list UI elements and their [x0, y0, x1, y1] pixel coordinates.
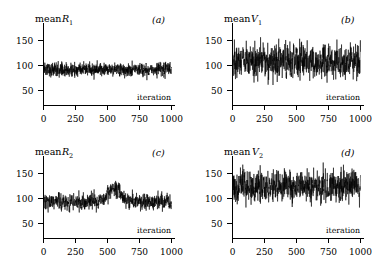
panel-c-trace-line	[44, 181, 172, 213]
panel-b-trace-line	[233, 37, 361, 85]
panel-c-ytick-100: 100	[16, 194, 33, 204]
panel-a-ylabel-prefix: mean	[35, 13, 61, 24]
panel-a-ytick-150: 150	[16, 36, 33, 46]
panel-d-xtick-0: 0	[230, 247, 236, 257]
panel-d-xtick-1000: 1000	[349, 247, 372, 257]
panel-a-xtick-750: 750	[131, 114, 148, 124]
panel-b-svg: mean V 1 (b) 150 100 50 0 250 500 750 10…	[189, 0, 377, 133]
panel-c-ytick-50: 50	[22, 219, 34, 229]
panel-b-xtick-500: 500	[288, 114, 305, 124]
panel-d-ytick-150: 150	[205, 169, 222, 179]
panel-b-ytick-100: 100	[205, 61, 222, 71]
panel-d-ytick-100: 100	[205, 194, 222, 204]
panel-d-xtick-250: 250	[256, 247, 273, 257]
panel-c: mean R 2 (c) 150 100 50 0 250 500 750 10…	[0, 133, 188, 266]
panel-b-xtick-1000: 1000	[349, 114, 372, 124]
panel-a-ytick-50: 50	[22, 86, 34, 96]
panel-d-trace-line	[233, 163, 361, 208]
panel-b-xtick-750: 750	[320, 114, 337, 124]
panel-a-ytick-100: 100	[16, 61, 33, 71]
panel-c-xtick-750: 750	[131, 247, 148, 257]
panel-d-letter: (d)	[341, 147, 355, 158]
panel-c-xtick-250: 250	[67, 247, 84, 257]
panel-d-xtick-500: 500	[288, 247, 305, 257]
panel-b-xlabel: iteration	[326, 93, 360, 102]
panel-d-ylabel-sub: 2	[259, 152, 263, 160]
panel-a-xtick-250: 250	[67, 114, 84, 124]
panel-c-ylabel-sub: 2	[69, 152, 73, 160]
panel-a-ylabel-sub: 1	[69, 19, 73, 27]
panel-b-xtick-0: 0	[230, 114, 236, 124]
panel-a-xtick-500: 500	[99, 114, 116, 124]
panel-c-xtick-0: 0	[41, 247, 47, 257]
panel-a-xtick-1000: 1000	[160, 114, 183, 124]
panel-a-xlabel: iteration	[137, 93, 171, 102]
panel-c-ylabel-prefix: mean	[35, 146, 61, 157]
panel-c-ytick-150: 150	[16, 169, 33, 179]
panel-b-xtick-250: 250	[256, 114, 273, 124]
panel-c-xtick-1000: 1000	[160, 247, 183, 257]
panel-a: mean R 1 (a) 150 100 50 0 250 500 750 10…	[0, 0, 188, 133]
panel-a-trace-line	[44, 60, 172, 80]
panel-a-xtick-0: 0	[41, 114, 47, 124]
panel-d-ylabel-prefix: mean	[224, 146, 250, 157]
panel-c-letter: (c)	[152, 147, 165, 158]
panel-b-ytick-50: 50	[211, 86, 223, 96]
panel-c-xtick-500: 500	[99, 247, 116, 257]
panel-d-xlabel: iteration	[326, 226, 360, 235]
panel-c-xlabel: iteration	[137, 226, 171, 235]
panel-b-letter: (b)	[341, 14, 355, 25]
panel-a-letter: (a)	[152, 14, 165, 25]
panel-d: mean V 2 (d) 150 100 50 0 250 500 750 10…	[189, 133, 377, 266]
panel-b-ylabel-sub: 1	[258, 19, 262, 27]
panel-b-ytick-150: 150	[205, 36, 222, 46]
panel-a-ylabel-var: R	[61, 13, 69, 24]
panel-a-svg: mean R 1 (a) 150 100 50 0 250 500 750 10…	[0, 0, 188, 133]
trace-plot-figure: mean R 1 (a) 150 100 50 0 250 500 750 10…	[0, 0, 377, 266]
panel-d-svg: mean V 2 (d) 150 100 50 0 250 500 750 10…	[189, 133, 377, 266]
panel-b: mean V 1 (b) 150 100 50 0 250 500 750 10…	[189, 0, 377, 133]
panel-c-svg: mean R 2 (c) 150 100 50 0 250 500 750 10…	[0, 133, 188, 266]
panel-d-xtick-750: 750	[320, 247, 337, 257]
panel-c-ylabel-var: R	[61, 146, 69, 157]
panel-b-ylabel-prefix: mean	[224, 13, 250, 24]
panel-d-ytick-50: 50	[211, 219, 223, 229]
